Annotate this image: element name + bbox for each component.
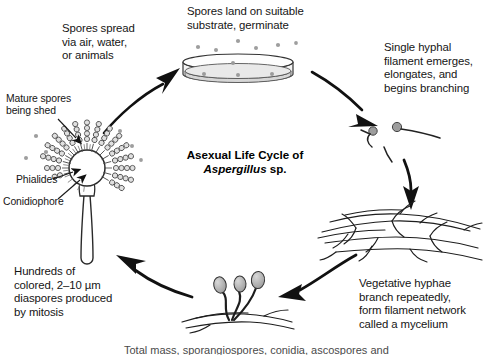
- arrow-to-mature-conidiophore: [116, 255, 192, 297]
- arrow-to-conidiophores: [278, 255, 356, 301]
- footer-clipped-text: Total mass, sporangiospores, conidia, as…: [124, 344, 389, 355]
- label-phialides: Phialides: [16, 174, 57, 186]
- mycelium-network: [318, 201, 482, 262]
- germinating-spores: [361, 122, 440, 162]
- petri-dish: [183, 39, 298, 83]
- arrow-to-petri-dish: [104, 68, 180, 133]
- caption-spores-land: Spores land on suitable substrate, germi…: [187, 5, 304, 32]
- arrow-to-mycelium: [403, 160, 419, 210]
- mature-conidiophore: [24, 120, 143, 264]
- young-conidiophores: [182, 271, 294, 333]
- figure-title: Asexual Life Cycle of Aspergillus sp.: [160, 148, 330, 176]
- figure-title-species: Aspergillus: [203, 162, 266, 175]
- caption-single-hyphal-filament: Single hyphal filament emerges, elongate…: [384, 41, 473, 95]
- label-conidiophore: Conidiophore: [3, 196, 64, 208]
- caption-vegetative-hyphae: Vegetative hyphae branch repeatedly, for…: [359, 277, 466, 331]
- arrow-to-germinating-spores: [312, 72, 378, 127]
- figure-title-line1: Asexual Life Cycle of: [187, 148, 304, 161]
- asexual-life-cycle-figure: Spores spread via air, water, or animals…: [0, 0, 491, 355]
- caption-hundreds-of-diaspores: Hundreds of colored, 2–10 µm diaspores p…: [14, 265, 112, 319]
- label-mature-spores-being-shed: Mature spores being shed: [6, 93, 71, 118]
- caption-spores-spread: Spores spread via air, water, or animals: [62, 22, 135, 63]
- figure-title-suffix: sp.: [267, 162, 287, 175]
